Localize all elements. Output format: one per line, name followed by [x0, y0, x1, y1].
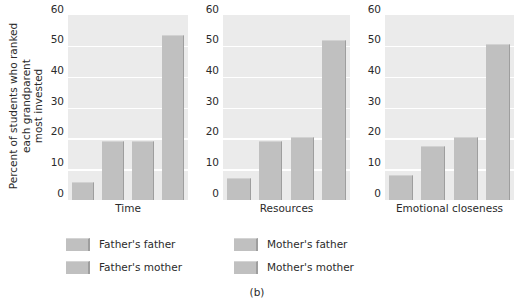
legend-swatch-icon — [66, 261, 90, 274]
bar-group-emotional-closeness — [385, 15, 514, 200]
y-tick-40: 40 — [51, 65, 64, 76]
bar-time-mother-s-father — [132, 141, 154, 200]
legend-label: Mother's mother — [267, 261, 354, 273]
bar-emotional-closeness-father-s-mother — [421, 146, 445, 200]
y-tick-20: 20 — [368, 126, 381, 137]
bar-time-father-s-mother — [102, 141, 124, 200]
bar-emotional-closeness-mother-s-father — [454, 137, 478, 200]
panel-resources: 0 10 20 30 40 50 60 Resources — [195, 8, 350, 220]
legend: Father's father Mother's father Father's… — [66, 234, 396, 280]
panel-label-time: Time — [68, 202, 188, 215]
bar-resources-mother-s-father — [291, 137, 314, 200]
bar-group-resources — [223, 15, 350, 200]
y-tick-50: 50 — [206, 34, 219, 45]
y-tick-20: 20 — [206, 126, 219, 137]
y-axis-label-line-2: each grandparent — [20, 23, 33, 190]
y-tick-0: 0 — [374, 188, 381, 199]
y-tick-60: 60 — [368, 4, 381, 15]
y-tick-10: 10 — [51, 157, 64, 168]
y-axis-ticks-time: 0 10 20 30 40 50 60 — [40, 8, 67, 200]
y-tick-10: 10 — [368, 157, 381, 168]
plot-area-time — [68, 15, 188, 200]
y-axis-ticks-emotional-closeness: 0 10 20 30 40 50 60 — [357, 8, 384, 200]
y-tick-40: 40 — [368, 65, 381, 76]
bar-chart-figure: Percent of students who ranked each gran… — [0, 0, 514, 305]
bar-emotional-closeness-mother-s-mother — [486, 44, 510, 200]
plot-area-resources — [223, 15, 350, 200]
y-tick-40: 40 — [206, 65, 219, 76]
legend-item-mothers-father: Mother's father — [234, 234, 347, 254]
panel-time: 0 10 20 30 40 50 60 Time — [40, 8, 188, 220]
legend-item-fathers-mother: Father's mother — [66, 257, 182, 277]
bar-time-mother-s-mother — [162, 35, 184, 200]
bar-time-father-s-father — [72, 182, 94, 201]
y-tick-10: 10 — [206, 157, 219, 168]
y-axis-ticks-resources: 0 10 20 30 40 50 60 — [195, 8, 222, 200]
legend-swatch-icon — [234, 238, 258, 251]
legend-label: Father's mother — [99, 261, 182, 273]
legend-label: Father's father — [99, 238, 175, 250]
bar-group-time — [68, 15, 188, 200]
plot-area-emotional-closeness — [385, 15, 514, 200]
panel-container: 0 10 20 30 40 50 60 Time 0 10 — [40, 8, 514, 220]
y-axis-label-line-1: Percent of students who ranked — [7, 23, 20, 190]
y-tick-60: 60 — [51, 4, 64, 15]
bar-resources-mother-s-mother — [322, 40, 345, 200]
y-tick-50: 50 — [368, 34, 381, 45]
panel-emotional-closeness: 0 10 20 30 40 50 60 Emotional closeness — [357, 8, 514, 220]
y-tick-30: 30 — [206, 96, 219, 107]
panel-label-resources: Resources — [223, 202, 350, 215]
bar-resources-father-s-mother — [259, 141, 282, 200]
y-tick-30: 30 — [368, 96, 381, 107]
legend-item-mothers-mother: Mother's mother — [234, 257, 354, 277]
y-tick-20: 20 — [51, 126, 64, 137]
bar-resources-father-s-father — [227, 178, 250, 200]
legend-label: Mother's father — [267, 238, 347, 250]
legend-swatch-icon — [234, 261, 258, 274]
y-tick-0: 0 — [212, 188, 219, 199]
legend-swatch-icon — [66, 238, 90, 251]
y-tick-50: 50 — [51, 34, 64, 45]
legend-item-fathers-father: Father's father — [66, 234, 175, 254]
y-tick-30: 30 — [51, 96, 64, 107]
y-tick-60: 60 — [206, 4, 219, 15]
bar-emotional-closeness-father-s-father — [389, 175, 413, 200]
figure-caption: (b) — [0, 286, 514, 298]
panel-label-emotional-closeness: Emotional closeness — [385, 202, 514, 215]
y-tick-0: 0 — [57, 188, 64, 199]
